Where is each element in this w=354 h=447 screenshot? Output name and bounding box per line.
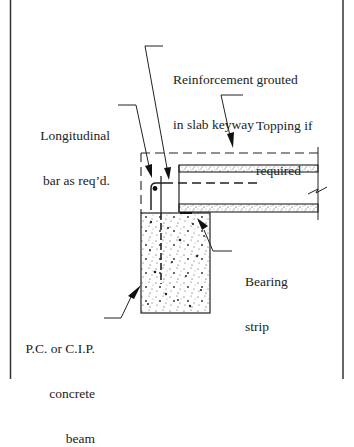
- leader-longitudinal: [118, 105, 149, 166]
- label-beam-line2: concrete: [18, 386, 95, 401]
- label-bearing-line2: strip: [245, 319, 288, 334]
- label-beam-line1: P.C. or C.I.P.: [18, 341, 95, 356]
- label-longitudinal-line2: bar as req’d.: [40, 173, 110, 188]
- label-beam-line3: beam: [18, 431, 95, 446]
- concrete-beam: [141, 213, 210, 313]
- label-topping: Topping if required: [256, 88, 312, 208]
- leader-reinforcement: [145, 46, 167, 168]
- label-beam: P.C. or C.I.P. concrete beam: [18, 311, 95, 447]
- label-topping-line1: Topping if: [256, 118, 312, 133]
- label-longitudinal: Longitudinal bar as req’d.: [40, 98, 110, 218]
- leader-beam: [104, 297, 131, 318]
- label-longitudinal-line1: Longitudinal: [40, 128, 110, 143]
- label-reinforcement-line1: Reinforcement grouted: [173, 72, 298, 87]
- arrowhead-reinforcement: [164, 167, 171, 180]
- label-topping-line2: required: [256, 163, 312, 178]
- longitudinal-bar: [151, 183, 164, 210]
- arrowhead-longitudinal: [145, 164, 152, 178]
- label-bearing: Bearing strip: [245, 244, 288, 364]
- arrowhead-beam: [128, 285, 141, 299]
- label-bearing-line1: Bearing: [245, 274, 288, 289]
